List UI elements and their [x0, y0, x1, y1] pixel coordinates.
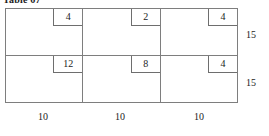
grid-cell-r0c2: 4 [160, 9, 237, 55]
cell-value-box-r0c0: 4 [53, 9, 82, 26]
grid-cell-r0c1: 2 [82, 9, 159, 55]
grid-cell-r0c0: 4 [6, 9, 82, 55]
table-row: 4 2 4 [6, 9, 237, 55]
cell-value-box-r0c2: 4 [208, 9, 237, 26]
table-row: 12 8 4 [6, 55, 237, 102]
column-dimension-label-1: 10 [110, 112, 130, 122]
row-dimension-label-1: 15 [246, 78, 256, 88]
grid-cell-r1c2: 4 [160, 56, 237, 102]
figure-container: Table 67 4 2 4 12 8 4 15 15 10 [0, 0, 269, 136]
cell-value-box-r1c2: 4 [208, 56, 237, 73]
row-dimension-label-0: 15 [246, 30, 256, 40]
cell-value-box-r1c0: 12 [53, 56, 82, 73]
figure-caption: Table 67 [3, 0, 41, 5]
column-dimension-label-2: 10 [189, 112, 209, 122]
grid-table: 4 2 4 12 8 4 [5, 8, 238, 103]
column-dimension-label-0: 10 [33, 112, 53, 122]
cell-value-box-r1c1: 8 [131, 56, 160, 73]
cell-value-box-r0c1: 2 [131, 9, 160, 26]
grid-cell-r1c0: 12 [6, 56, 82, 102]
grid-cell-r1c1: 8 [82, 56, 159, 102]
